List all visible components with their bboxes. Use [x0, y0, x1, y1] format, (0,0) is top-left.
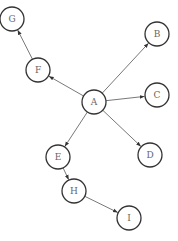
node-f: F	[26, 58, 50, 82]
node-label: C	[154, 90, 161, 100]
edge-a-to-f	[49, 76, 84, 96]
edge-a-to-b	[102, 43, 148, 93]
node-label: E	[55, 152, 62, 162]
node-h: H	[62, 179, 86, 203]
node-label: D	[146, 150, 153, 160]
edge-e-to-h	[63, 168, 69, 180]
node-label: A	[90, 97, 98, 107]
node-e: E	[46, 145, 70, 169]
node-i: I	[117, 206, 141, 230]
node-d: D	[138, 143, 162, 167]
node-a: A	[82, 90, 106, 114]
node-label: I	[127, 213, 131, 223]
nodes-layer: ABCDEFGHI	[0, 7, 169, 230]
edge-a-to-c	[106, 96, 145, 100]
node-b: B	[145, 22, 169, 46]
node-label: F	[35, 65, 41, 75]
node-label: B	[154, 29, 161, 39]
node-g: G	[0, 7, 24, 31]
graph-canvas: ABCDEFGHI	[0, 0, 178, 241]
edge-h-to-i	[85, 196, 118, 212]
edge-a-to-d	[103, 110, 141, 146]
node-label: H	[70, 186, 78, 196]
edge-a-to-e	[65, 112, 88, 147]
edge-f-to-g	[18, 30, 33, 59]
node-label: G	[8, 14, 15, 24]
node-c: C	[145, 83, 169, 107]
